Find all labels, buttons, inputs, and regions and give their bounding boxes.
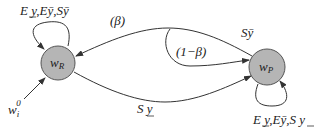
node-wP: wP: [249, 49, 285, 85]
wR-self-loop-label: E y,Eȳ,Sȳ: [19, 3, 69, 18]
beta-label: (β): [110, 13, 125, 28]
wR-self-loop-edge: [33, 22, 69, 49]
input-edge: [24, 78, 45, 99]
wP-self-loop-label: E y,Eȳ,S y: [252, 112, 305, 127]
state-diagram: E y,Eȳ,Sȳ (β) (1−β) Sȳ S y E y,Eȳ,S y wi…: [0, 0, 318, 128]
one-minus-beta-label: (1−β): [176, 44, 206, 59]
wR-to-wP-edge: [74, 72, 251, 102]
wP-out-top-label: Sȳ: [241, 25, 254, 40]
input-label: wi0: [8, 98, 21, 119]
wP-to-wR-edge: [76, 28, 252, 56]
wR-to-wP-label: S y: [137, 101, 153, 116]
node-wR: wR: [41, 46, 75, 80]
